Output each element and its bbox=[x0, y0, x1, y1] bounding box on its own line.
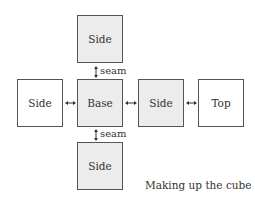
seam-arrow-lower-icon bbox=[93, 129, 99, 141]
base-box-label: Base bbox=[87, 97, 113, 109]
side-box-right: Side bbox=[138, 79, 184, 127]
side-box-right-label: Side bbox=[149, 97, 173, 109]
join-arrow-right-icon bbox=[186, 100, 197, 106]
side-box-bottom-label: Side bbox=[88, 160, 112, 172]
side-box-left-label: Side bbox=[28, 97, 52, 109]
side-box-top-label: Side bbox=[88, 33, 112, 45]
join-arrow-left-icon bbox=[65, 100, 76, 106]
base-box: Base bbox=[77, 79, 123, 127]
seam-arrow-upper-icon bbox=[93, 66, 99, 78]
seam-label-lower: seam bbox=[100, 128, 127, 139]
side-box-left: Side bbox=[17, 79, 63, 127]
side-box-top: Side bbox=[77, 15, 123, 63]
diagram-caption: Making up the cube bbox=[145, 179, 252, 191]
seam-label-upper: seam bbox=[100, 65, 127, 76]
join-arrow-middle-icon bbox=[125, 100, 137, 106]
top-box-label: Top bbox=[211, 97, 230, 109]
side-box-bottom: Side bbox=[77, 142, 123, 190]
top-box: Top bbox=[198, 79, 244, 127]
